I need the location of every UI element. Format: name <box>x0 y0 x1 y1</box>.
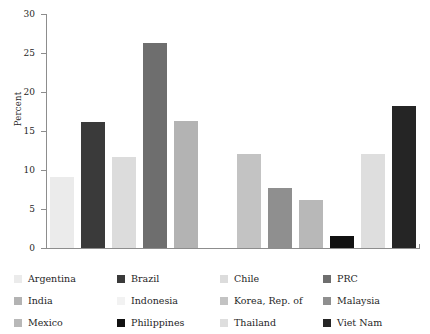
bar-chart: Percent 302520151050 ArgentinaBrazilChil… <box>0 0 430 334</box>
legend-label: Korea, Rep. of <box>234 296 303 306</box>
y-axis-tick-label: 5 <box>7 205 35 214</box>
legend-swatch-icon <box>14 275 22 283</box>
legend-swatch-icon <box>117 319 125 327</box>
bar <box>143 43 167 248</box>
y-axis-tick-label: 0 <box>7 244 35 253</box>
legend-label: Brazil <box>131 274 159 284</box>
bar <box>361 154 385 248</box>
y-axis-tick-label: 30 <box>7 10 35 19</box>
x-axis-line <box>46 248 420 249</box>
bar <box>112 157 136 248</box>
legend-item: Mexico <box>14 318 117 328</box>
bar <box>174 121 198 248</box>
legend-label: Chile <box>234 274 259 284</box>
legend-label: India <box>28 296 53 306</box>
bar <box>81 122 105 248</box>
legend-swatch-icon <box>117 275 125 283</box>
legend-label: PRC <box>337 274 358 284</box>
legend-swatch-icon <box>14 319 22 327</box>
legend-item: Malaysia <box>323 296 418 306</box>
legend-swatch-icon <box>323 297 331 305</box>
legend-item: PRC <box>323 274 418 284</box>
legend-swatch-icon <box>323 319 331 327</box>
chart-legend: ArgentinaBrazilChilePRCIndiaIndonesiaKor… <box>0 266 430 334</box>
bar <box>237 154 261 248</box>
bar <box>268 188 292 248</box>
legend-label: Indonesia <box>131 296 178 306</box>
y-axis-tick-label: 25 <box>7 49 35 58</box>
bar-series <box>46 14 420 248</box>
legend-item: Argentina <box>14 274 117 284</box>
legend-item: Chile <box>220 274 323 284</box>
y-axis-tick-label: 20 <box>7 88 35 97</box>
legend-item: Thailand <box>220 318 323 328</box>
plot-area: Percent 302520151050 <box>0 0 430 262</box>
legend-swatch-icon <box>117 297 125 305</box>
legend-swatch-icon <box>220 297 228 305</box>
legend-swatch-icon <box>220 319 228 327</box>
legend-label: Mexico <box>28 318 63 328</box>
legend-item: India <box>14 296 117 306</box>
legend-item: Indonesia <box>117 296 220 306</box>
bar <box>50 177 74 248</box>
bar <box>392 106 416 248</box>
legend-swatch-icon <box>220 275 228 283</box>
legend-item: Philippines <box>117 318 220 328</box>
legend-label: Argentina <box>28 274 76 284</box>
y-axis-tick-labels: 302520151050 <box>5 0 35 262</box>
legend-label: Thailand <box>234 318 276 328</box>
legend-item: Brazil <box>117 274 220 284</box>
y-axis-tick-label: 10 <box>7 166 35 175</box>
bar <box>330 236 354 248</box>
legend-label: Malaysia <box>337 296 380 306</box>
legend-swatch-icon <box>323 275 331 283</box>
legend-item: Korea, Rep. of <box>220 296 323 306</box>
y-axis-tick-label: 15 <box>7 127 35 136</box>
legend-item: Viet Nam <box>323 318 418 328</box>
bar <box>299 200 323 248</box>
legend-label: Viet Nam <box>337 318 382 328</box>
legend-swatch-icon <box>14 297 22 305</box>
legend-label: Philippines <box>131 318 184 328</box>
